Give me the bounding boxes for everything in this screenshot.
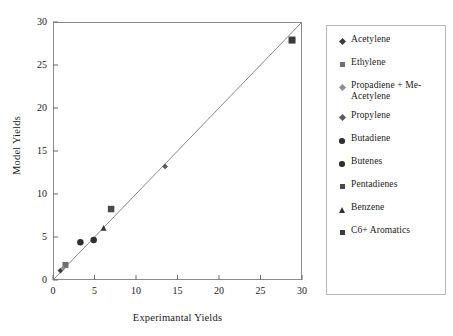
x-tick-label: 15 bbox=[165, 285, 191, 296]
x-tick-label: 30 bbox=[289, 285, 315, 296]
legend-label: Butenes bbox=[349, 156, 382, 167]
legend-item-propadiene-me-acetylene[interactable]: Propadiene + Me-Acetylene bbox=[335, 80, 439, 101]
data-point-butadiene bbox=[77, 239, 84, 246]
data-point-propylene bbox=[162, 164, 168, 170]
legend-label: Acetylene bbox=[349, 34, 390, 45]
diamond-marker-icon bbox=[335, 111, 349, 124]
parity-line bbox=[53, 22, 302, 280]
legend-label: Pentadienes bbox=[349, 179, 397, 190]
triangle-marker-icon bbox=[335, 203, 349, 216]
y-tick-label: 30 bbox=[21, 16, 47, 27]
legend-label: Propadiene + Me-Acetylene bbox=[349, 80, 439, 101]
legend-label: Propylene bbox=[349, 110, 390, 121]
circle-marker-icon bbox=[335, 134, 349, 147]
square-marker-icon bbox=[335, 180, 349, 193]
chart-root: 051015202530 051015202530 Experimantal Y… bbox=[0, 0, 453, 336]
legend-item-pentadienes[interactable]: Pentadienes bbox=[335, 179, 439, 193]
x-tick-label: 20 bbox=[206, 285, 232, 296]
legend-label: Benzene bbox=[349, 202, 384, 213]
x-tick-label: 5 bbox=[82, 285, 108, 296]
data-point-c6-aromatics bbox=[289, 37, 296, 44]
data-points bbox=[58, 37, 296, 274]
legend-label: Ethylene bbox=[349, 57, 386, 68]
y-tick-label: 5 bbox=[21, 231, 47, 242]
chart-legend: AcetyleneEthylenePropadiene + Me-Acetyle… bbox=[326, 25, 446, 295]
diamond-marker-icon bbox=[335, 81, 349, 94]
y-axis-title: Model Yields bbox=[11, 86, 22, 206]
legend-item-butadiene[interactable]: Butadiene bbox=[335, 133, 439, 147]
x-tick-label: 0 bbox=[40, 285, 66, 296]
square-marker-icon bbox=[335, 58, 349, 71]
y-tick-label: 25 bbox=[21, 59, 47, 70]
legend-item-ethylene[interactable]: Ethylene bbox=[335, 57, 439, 71]
legend-item-c6-aromatics[interactable]: C6+ Aromatics bbox=[335, 225, 439, 239]
data-point-butenes bbox=[90, 237, 97, 244]
legend-label: C6+ Aromatics bbox=[349, 225, 410, 236]
y-tick-label: 10 bbox=[21, 188, 47, 199]
legend-item-benzene[interactable]: Benzene bbox=[335, 202, 439, 216]
y-tick-label: 0 bbox=[21, 274, 47, 285]
scatter-plot: 051015202530 051015202530 Experimantal Y… bbox=[0, 0, 320, 336]
legend-item-butenes[interactable]: Butenes bbox=[335, 156, 439, 170]
x-axis-title: Experimantal Yields bbox=[53, 312, 302, 323]
x-tick-label: 25 bbox=[248, 285, 274, 296]
legend-label: Butadiene bbox=[349, 133, 390, 144]
data-point-pentadienes bbox=[108, 206, 115, 213]
y-tick-label: 20 bbox=[21, 102, 47, 113]
x-tick-label: 10 bbox=[123, 285, 149, 296]
legend-item-propylene[interactable]: Propylene bbox=[335, 110, 439, 124]
legend-item-acetylene[interactable]: Acetylene bbox=[335, 34, 439, 48]
circle-marker-icon bbox=[335, 157, 349, 170]
square-marker-icon bbox=[335, 226, 349, 239]
diamond-marker-icon bbox=[335, 35, 349, 48]
y-tick-label: 15 bbox=[21, 145, 47, 156]
